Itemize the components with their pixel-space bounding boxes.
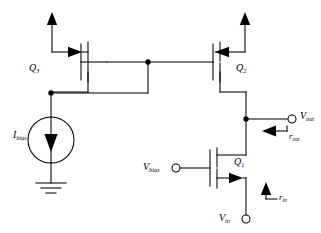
supply-arrow-right-icon: [240, 12, 250, 25]
rout-arrow-icon: [262, 126, 276, 137]
vin-terminal-circle[interactable]: [242, 215, 250, 223]
label-q3: Q3: [29, 63, 39, 74]
ground-symbol: [36, 163, 66, 193]
gate-bus: [51, 62, 213, 93]
label-i-bias: Ibias: [13, 130, 27, 141]
label-v-in: Vin: [219, 213, 230, 224]
rout-indicator: [276, 126, 287, 131]
label-v-bias: Vbias: [143, 162, 159, 173]
transistor-q2: [213, 42, 246, 119]
schematic-canvas: Q3 Q2 Q1 Ibias Vbias Vout rout Vin rin: [0, 0, 321, 233]
label-r-in: rin: [279, 193, 287, 203]
supply-rail-left: [52, 22, 68, 52]
current-arrow-q1-icon: [229, 173, 243, 183]
label-v-out: Vout: [300, 111, 314, 122]
current-source-arrow-icon: [44, 134, 57, 152]
label-r-out: rout: [289, 132, 300, 142]
label-q1: Q1: [234, 157, 244, 168]
mirror-input-node-dot: [48, 90, 53, 95]
supply-rail-right: [229, 22, 245, 52]
label-q2: Q2: [236, 63, 246, 74]
circuit-schematic: [0, 0, 321, 233]
rin-arrow-icon: [261, 182, 271, 195]
gate-bus-node-dot: [145, 59, 150, 64]
supply-arrow-left-icon: [47, 12, 57, 25]
transistor-q3: [51, 42, 107, 92]
vout-terminal-circle[interactable]: [288, 115, 296, 123]
vbias-terminal-circle[interactable]: [172, 164, 180, 172]
